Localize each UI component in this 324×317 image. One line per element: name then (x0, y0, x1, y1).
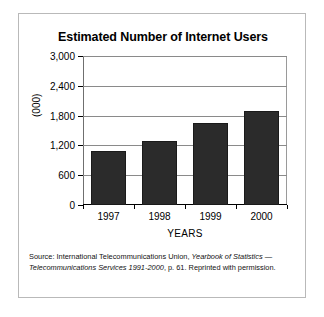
y-tick-mark (78, 86, 83, 87)
chart-figure: Estimated Number of Internet Users (000)… (18, 13, 306, 298)
x-tick-label: 1997 (97, 211, 119, 222)
x-tick-mark (236, 205, 237, 209)
y-tick-label: 3,000 (29, 51, 75, 62)
source-note: Source: International Telecommunications… (29, 252, 297, 273)
y-tick-mark (78, 116, 83, 117)
plot-inner: 06001,2001,8002,4003,000 199719981999200… (83, 56, 287, 205)
gridline (83, 86, 287, 87)
x-tick-label: 2000 (250, 211, 272, 222)
x-tick-mark (185, 205, 186, 209)
y-tick-label: 1,800 (29, 110, 75, 121)
y-tick-label: 2,400 (29, 80, 75, 91)
plot-right-border (286, 56, 287, 205)
y-tick-label: 1,200 (29, 140, 75, 151)
x-tick-label: 1999 (199, 211, 221, 222)
gridline (83, 56, 287, 57)
bar-1999 (193, 123, 229, 205)
y-tick-mark (78, 145, 83, 146)
y-tick-mark (78, 56, 83, 57)
x-tick-mark (287, 205, 288, 209)
source-prefix: Source: International Telecommunications… (29, 252, 192, 261)
x-tick-mark (134, 205, 135, 209)
x-tick-label: 1998 (148, 211, 170, 222)
bar-1997 (91, 151, 127, 205)
plot-area: 06001,2001,8002,4003,000 199719981999200… (83, 56, 287, 205)
x-axis-title: YEARS (83, 228, 287, 239)
y-tick-label: 0 (29, 200, 75, 211)
y-tick-mark (78, 175, 83, 176)
source-suffix: , p. 61. Reprinted with permission. (164, 263, 276, 272)
y-axis-line (83, 56, 84, 205)
y-tick-label: 600 (29, 170, 75, 181)
x-tick-mark (83, 205, 84, 209)
bar-2000 (244, 111, 280, 205)
bar-1998 (142, 141, 178, 205)
